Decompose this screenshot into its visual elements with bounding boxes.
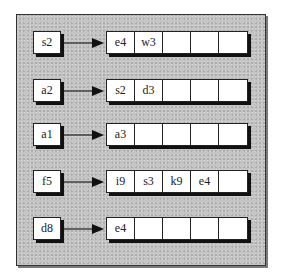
key-box: s2 [33,31,61,54]
value-array: i9 s3 k9 e4 [106,170,248,193]
value-array: s2 d3 [106,79,248,102]
array-cell: k9 [163,171,191,192]
array-cell [135,124,163,145]
value-array: e4 w3 [106,31,248,54]
row-s2: s2 e4 w3 [17,31,265,57]
array-cell [191,32,219,53]
array-cell: w3 [135,32,163,53]
key-box: a1 [33,123,61,146]
array-cell: s3 [135,171,163,192]
value-array: a3 [106,123,248,146]
array-cell [219,80,247,101]
array-cell [219,171,247,192]
array-cell: i9 [107,171,135,192]
arrow-icon [64,90,104,92]
array-cell [191,80,219,101]
array-cell: d3 [135,80,163,101]
row-f5: f5 i9 s3 k9 e4 [17,170,265,196]
array-cell: a3 [107,124,135,145]
arrow-icon [64,181,104,183]
value-array: e4 [106,217,248,240]
array-cell [163,218,191,239]
array-cell [135,218,163,239]
key-box: a2 [33,79,61,102]
row-d8: d8 e4 [17,217,265,243]
row-a2: a2 s2 d3 [17,79,265,105]
array-cell [163,124,191,145]
array-cell [163,32,191,53]
row-a1: a1 a3 [17,123,265,149]
array-cell: s2 [107,80,135,101]
diagram-frame: s2 e4 w3 a2 s2 d3 a1 a3 [16,14,266,266]
array-cell: e4 [107,218,135,239]
key-box: d8 [33,217,61,240]
array-cell [191,218,219,239]
array-cell [219,124,247,145]
array-cell: e4 [107,32,135,53]
arrow-icon [64,134,104,136]
array-cell: e4 [191,171,219,192]
array-cell [219,32,247,53]
key-box: f5 [33,170,61,193]
arrow-icon [64,42,104,44]
arrow-icon [64,228,104,230]
array-cell [191,124,219,145]
array-cell [219,218,247,239]
array-cell [163,80,191,101]
